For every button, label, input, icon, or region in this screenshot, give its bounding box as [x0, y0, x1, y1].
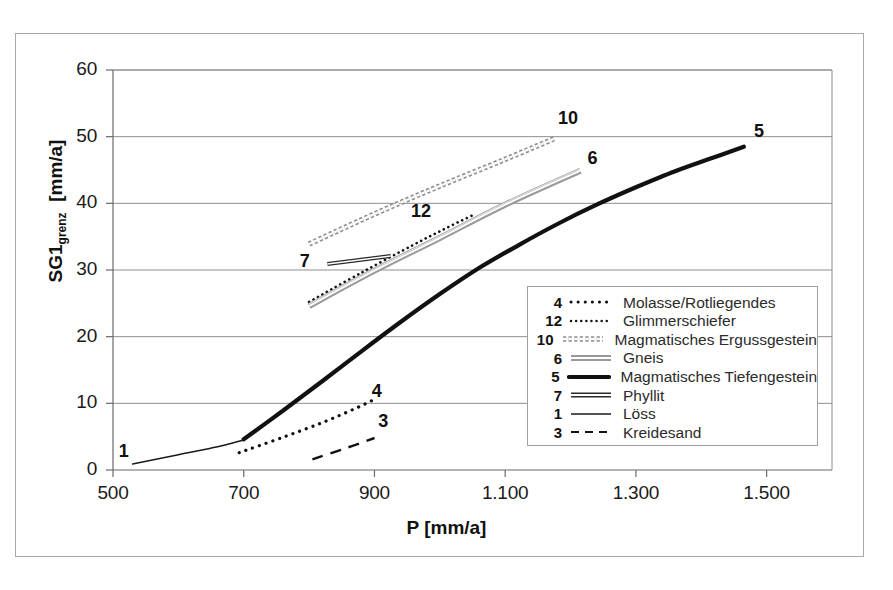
legend-item-7[interactable]: 7Phyllit [528, 386, 817, 405]
series-label-10: 10 [558, 108, 578, 129]
y-tick-label: 10 [51, 391, 97, 413]
series-1 [133, 440, 244, 464]
y-tick-label: 60 [51, 58, 97, 80]
legend-line-sample-icon [569, 295, 613, 309]
legend-item-4[interactable]: 4Molasse/Rotliegendes [528, 293, 817, 312]
series-label-12: 12 [411, 201, 431, 222]
x-tick-label: 1.100 [460, 482, 550, 504]
legend-item-label: Molasse/Rotliegendes [623, 295, 776, 311]
series-label-1: 1 [119, 441, 129, 462]
series-3 [312, 438, 374, 459]
legend-item-number: 6 [532, 351, 562, 366]
x-axis-title: P [mm/a] [0, 517, 893, 539]
legend-item-number: 3 [532, 425, 562, 440]
x-tick-label: 700 [199, 482, 289, 504]
legend-item-number: 4 [532, 295, 562, 310]
legend-item-number: 1 [532, 406, 562, 421]
legend-item-number: 12 [532, 313, 562, 328]
x-tick-label: 900 [329, 482, 419, 504]
legend-item-label: Löss [623, 406, 656, 422]
legend-item-label: Glimmerschiefer [623, 313, 736, 329]
legend-item-10[interactable]: 10Magmatisches Ergussgestein [528, 330, 817, 349]
legend-item-12[interactable]: 12Glimmerschiefer [528, 312, 817, 331]
legend-line-sample-icon [569, 351, 613, 365]
y-axis-title-unit: [mm/a] [45, 140, 66, 202]
legend-item-number: 10 [532, 332, 554, 347]
series-10 [309, 139, 554, 244]
y-axis-title: SG1grenz [mm/a] [45, 91, 67, 331]
legend-line-sample-icon [567, 370, 611, 384]
series-label-5: 5 [754, 121, 764, 142]
legend-item-label: Gneis [623, 350, 664, 366]
legend-item-label: Kreidesand [623, 425, 701, 441]
x-tick-label: 1.300 [591, 482, 681, 504]
legend-item-label: Magmatisches Ergussgestein [615, 332, 817, 348]
series-label-7: 7 [300, 251, 310, 272]
series-label-4: 4 [372, 381, 382, 402]
legend-item-number: 7 [532, 388, 562, 403]
x-tick-label: 1.500 [722, 482, 812, 504]
y-axis-title-base: SG1 [45, 244, 66, 282]
x-tick-label: 500 [68, 482, 158, 504]
chart-legend: 4Molasse/Rotliegendes12Glimmerschiefer10… [527, 286, 818, 446]
series-label-6: 6 [587, 148, 597, 169]
legend-item-number: 5 [532, 369, 560, 384]
y-axis-title-subscript: grenz [55, 212, 69, 244]
legend-line-sample-icon [569, 407, 613, 421]
series-label-3: 3 [378, 411, 388, 432]
legend-line-sample-icon [561, 332, 605, 346]
legend-item-6[interactable]: 6Gneis [528, 349, 817, 368]
legend-line-sample-icon [569, 388, 613, 402]
legend-item-label: Phyllit [623, 388, 664, 404]
legend-item-1[interactable]: 1Löss [528, 405, 817, 424]
legend-item-5[interactable]: 5Magmatisches Tiefengestein [528, 367, 817, 386]
legend-item-3[interactable]: 3Kreidesand [528, 423, 817, 442]
legend-line-sample-icon [569, 425, 613, 439]
legend-item-label: Magmatisches Tiefengestein [621, 369, 817, 385]
legend-line-sample-icon [569, 314, 613, 328]
y-tick-label: 0 [51, 458, 97, 480]
